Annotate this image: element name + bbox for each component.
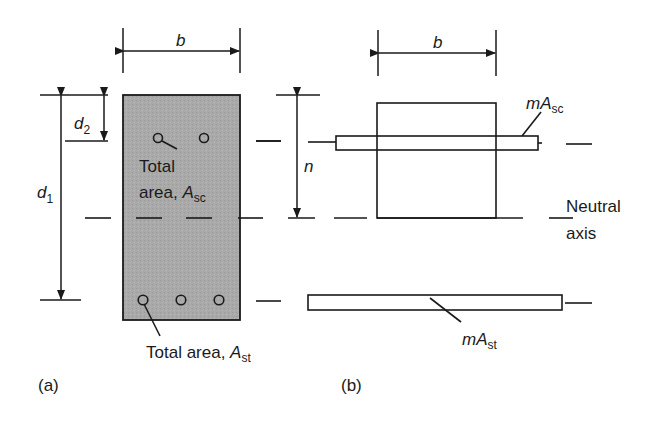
tension-area-label: Total area, Ast xyxy=(146,343,251,365)
d2-label: d2 xyxy=(74,114,90,137)
concrete-compression-zone xyxy=(377,103,496,218)
neutral-axis-label-line2: axis xyxy=(566,224,596,243)
width-label-a: b xyxy=(176,31,185,50)
panel-a-caption: (a) xyxy=(38,376,59,395)
transformed-compression-steel xyxy=(308,112,592,150)
panel-a: b d1 d2 Total area, Asc xyxy=(37,28,263,395)
d1-label: d1 xyxy=(37,183,53,206)
na-depth-label: n xyxy=(304,157,313,176)
neutral-axis-label-line1: Neutral xyxy=(566,197,621,216)
compression-steel-label: mAsc xyxy=(526,94,564,116)
tension-steel-label: mAst xyxy=(462,330,498,352)
panel-b-caption: (b) xyxy=(341,376,362,395)
panel-b: n b mAsc Neutral axis xyxy=(256,30,621,395)
width-label-b: b xyxy=(433,33,442,52)
transformed-tension-steel xyxy=(308,295,592,322)
concrete-section xyxy=(123,95,240,320)
transformed-section-diagram: b d1 d2 Total area, Asc xyxy=(0,0,662,427)
level-dashes-middle xyxy=(256,141,281,301)
compression-area-label-line1: Total xyxy=(139,157,175,176)
